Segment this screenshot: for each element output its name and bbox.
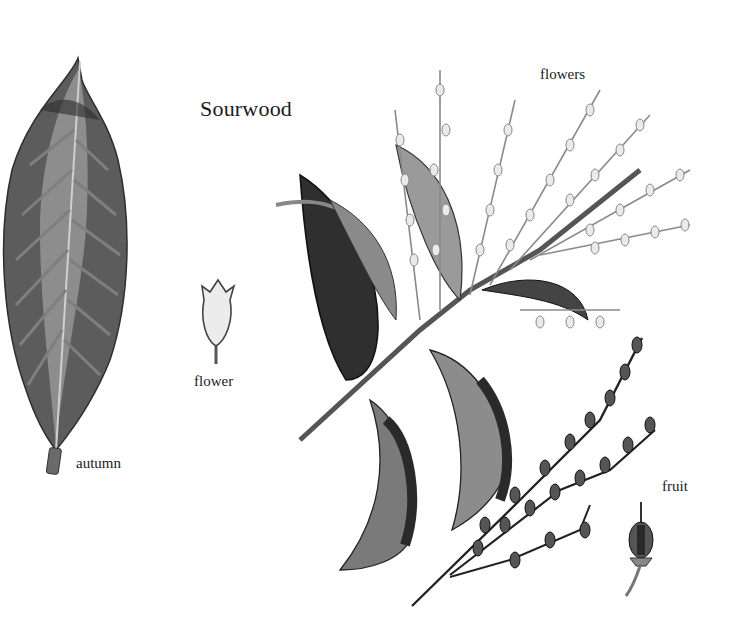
flower-label: flower — [194, 373, 233, 390]
single-flower-illustration — [202, 280, 234, 364]
autumn-leaf-illustration — [4, 58, 127, 475]
botanical-illustration — [0, 0, 735, 636]
flowering-branch-illustration — [276, 70, 690, 570]
autumn-label: autumn — [76, 455, 121, 472]
single-fruit-illustration — [626, 502, 653, 596]
plate-title: Sourwood — [200, 96, 292, 122]
flowers-label: flowers — [540, 66, 585, 83]
fruit-label: fruit — [662, 478, 688, 495]
